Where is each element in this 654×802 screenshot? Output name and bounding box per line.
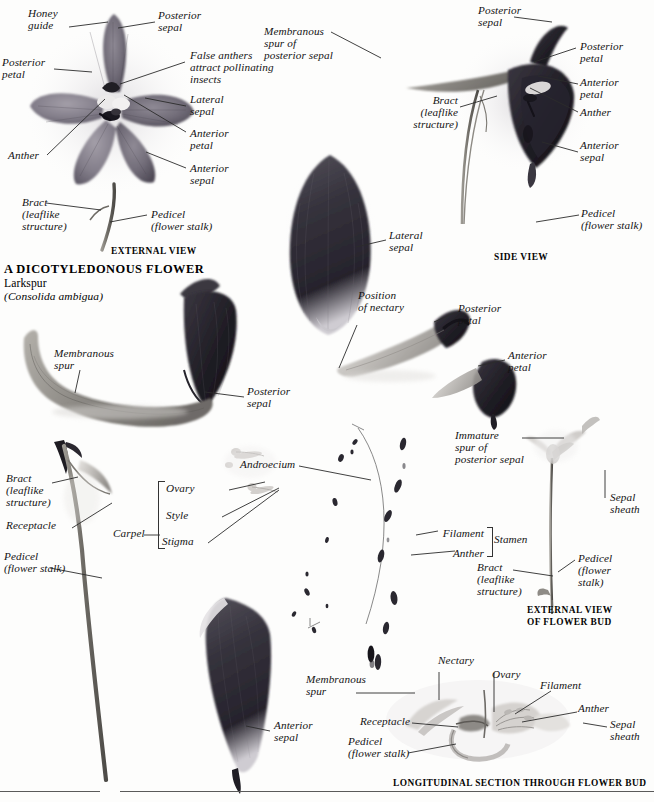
label-honey-guide: Honey guide — [28, 8, 58, 32]
label-anterior-sepal-side: Anterior sepal — [580, 140, 619, 164]
label-anterior-petal-side: Anterior petal — [580, 77, 619, 101]
label-posterior-petal-dissect: Posterior petal — [458, 303, 501, 327]
label-pedicel-section: Pedicel (flower stalk) — [348, 736, 409, 760]
label-pedicel-bud: Pedicel (flower stalk) — [578, 553, 612, 588]
label-bract-side: Bract (leaflike structure) — [394, 95, 458, 130]
label-pedicel-side: Pedicel (flower stalk) — [581, 208, 642, 232]
label-posterior-sepal-dissect: Posterior sepal — [247, 386, 290, 410]
label-carpel: Carpel — [113, 528, 145, 540]
label-posterior-sepal-ext: Posterior sepal — [158, 10, 201, 34]
label-false-anthers: False anthers attract pollinating insect… — [190, 50, 274, 85]
label-membranous-spur-section: Membranous spur — [306, 674, 366, 698]
label-pedicel-ext: Pedicel (flower stalk) — [151, 209, 212, 233]
page-title: A DICOTYLEDONOUS FLOWER Larkspur (Consol… — [4, 262, 204, 302]
label-filament-bud: Filament — [420, 528, 484, 540]
label-anther-section: Anther — [578, 703, 609, 715]
label-bract-dissect: Bract (leaflike structure) — [6, 473, 51, 508]
label-immature-spur: Immature spur of posterior sepal — [455, 430, 524, 465]
label-position-of-nectary: Position of nectary — [358, 290, 404, 314]
label-pedicel-dissect: Pedicel (flower stalk) — [4, 551, 65, 575]
label-lateral-sepal-dissect: Lateral sepal — [389, 230, 423, 254]
caption-external-view-bud: EXTERNAL VIEW OF FLOWER BUD — [527, 604, 613, 628]
label-androecium: Androecium — [240, 459, 295, 471]
label-anterior-sepal-dissect: Anterior sepal — [274, 720, 313, 744]
title-common-name: Larkspur — [4, 277, 204, 290]
label-sepal-sheath-section: Sepal sheath — [610, 719, 640, 743]
label-posterior-petal-ext: Posterior petal — [2, 57, 45, 81]
label-lateral-sepal-ext: Lateral sepal — [190, 94, 224, 118]
label-style: Style — [166, 510, 188, 522]
caption-longitudinal-section: LONGITUDINAL SECTION THROUGH FLOWER BUD — [393, 777, 646, 789]
illustration-page: A DICOTYLEDONOUS FLOWER Larkspur (Consol… — [0, 0, 654, 802]
label-anterior-petal-ext: Anterior petal — [190, 128, 229, 152]
label-anther-ext: Anther — [8, 150, 39, 162]
label-sepal-sheath-bud: Sepal sheath — [610, 492, 640, 516]
title-scientific-name: (Consolida ambigua) — [4, 290, 204, 302]
footer-rule-left — [0, 791, 100, 792]
label-receptacle-dissect: Receptacle — [6, 520, 56, 532]
label-membranous-spur-dissect: Membranous spur — [54, 348, 114, 372]
label-anther-bud: Anther — [432, 548, 484, 560]
label-stamen: Stamen — [494, 534, 528, 546]
label-stigma: Stigma — [162, 536, 194, 548]
caption-side-view: SIDE VIEW — [494, 251, 548, 263]
label-nectary-section: Nectary — [438, 655, 474, 667]
label-anterior-sepal-ext: Anterior sepal — [190, 163, 229, 187]
footer-rule-right — [120, 791, 654, 792]
label-filament-section: Filament — [540, 680, 581, 692]
label-bract-ext: Bract (leaflike structure) — [22, 197, 67, 232]
label-receptacle-section: Receptacle — [340, 716, 410, 728]
label-ovary-dissect: Ovary — [166, 483, 194, 495]
label-anther-side: Anther — [580, 107, 611, 119]
label-posterior-petal-side: Posterior petal — [580, 41, 623, 65]
title-heading: A DICOTYLEDONOUS FLOWER — [4, 262, 204, 277]
label-anterior-petal-dissect: Anterior petal — [508, 350, 547, 374]
stamen-bracket — [487, 527, 493, 557]
carpel-bracket — [158, 481, 165, 549]
label-ovary-section: Ovary — [492, 669, 520, 681]
label-posterior-sepal-side: Posterior sepal — [478, 5, 521, 29]
caption-external-view: EXTERNAL VIEW — [111, 245, 197, 257]
label-membranous-spur-side: Membranous spur of posterior sepal — [264, 26, 333, 61]
label-bract-bud: Bract (leaflike structure) — [477, 562, 522, 597]
